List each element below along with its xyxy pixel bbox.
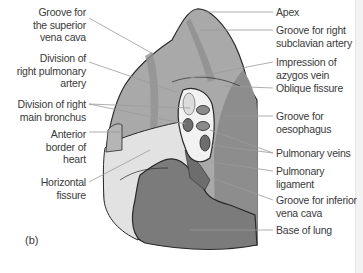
label-pulmonary-veins: Pulmonary veins <box>276 147 351 160</box>
label-horizontal-fissure: Horizontal fissure <box>41 176 86 201</box>
label-ivc-groove: Groove for inferior vena cava <box>276 194 357 219</box>
label-azygos-impression: Impression of azygos vein <box>276 56 336 81</box>
panel-label: (b) <box>25 234 38 246</box>
pulmonary-vein <box>200 135 210 151</box>
label-apex: Apex <box>276 6 299 19</box>
label-anterior-border: Anterior border of heart <box>46 128 86 166</box>
bronchus <box>183 119 193 132</box>
label-oesophagus-groove: Groove for oesophagus <box>276 110 331 135</box>
pulmonary-artery-vessel <box>183 93 195 115</box>
label-base-of-lung: Base of lung <box>276 224 332 237</box>
label-subclavian-groove: Groove for right subclavian artery <box>276 24 352 49</box>
anterior-border <box>106 124 122 152</box>
vessel-mid <box>197 122 210 131</box>
label-svc-groove: Groove for the superior vena cava <box>33 6 86 44</box>
vessel-upper <box>197 106 210 115</box>
label-rpa-division: Division of right pulmonary artery <box>17 52 86 90</box>
label-pulmonary-ligament: Pulmonary ligament <box>276 165 324 190</box>
label-bronchus-division: Division of right main bronchus <box>18 98 86 123</box>
label-oblique-fissure: Oblique fissure <box>276 82 343 95</box>
